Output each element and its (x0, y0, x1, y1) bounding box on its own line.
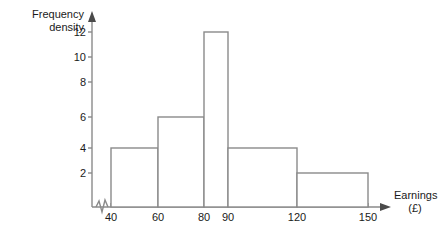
bar-40-60 (111, 148, 158, 207)
bar-90-120 (228, 148, 297, 207)
histogram-bars (111, 32, 368, 207)
bar-120-150 (297, 173, 368, 207)
y-axis (88, 11, 96, 207)
x-axis-break-icon (96, 200, 108, 212)
bar-80-90 (204, 32, 228, 207)
bar-60-80 (158, 117, 204, 207)
x-axis-arrow-icon (380, 203, 391, 211)
y-axis-arrow-icon (88, 11, 96, 22)
